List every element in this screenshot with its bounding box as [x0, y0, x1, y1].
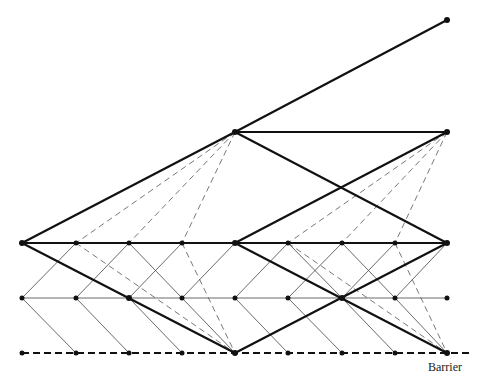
lattice-svg [0, 0, 486, 381]
lattice-diagram: Barrier [0, 0, 486, 381]
lattice-nodes [19, 17, 450, 356]
barrier-label: Barrier [428, 360, 462, 375]
coarse-tree-lines [22, 20, 447, 353]
